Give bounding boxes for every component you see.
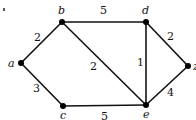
vertex-d (143, 19, 149, 25)
vertex-label-a: a (8, 57, 15, 70)
vertex-label-e: e (143, 108, 150, 120)
weight-label-c-e: 5 (101, 110, 108, 120)
weighted-graph: a b c d e z 2 3 5 2 1 2 4 5 (0, 0, 196, 120)
edge-b-e (62, 22, 146, 105)
edge-a-b (21, 22, 62, 63)
weight-label-d-z: 2 (167, 30, 174, 43)
edge-d-z (146, 22, 188, 66)
vertex-label-z: z (192, 60, 196, 73)
weight-label-d-e: 1 (137, 56, 144, 69)
vertex-label-b: b (58, 4, 65, 17)
weight-label-e-z: 4 (167, 86, 174, 99)
vertex-label-d: d (142, 4, 149, 17)
weight-label-b-e: 2 (90, 60, 97, 73)
vertex-a (18, 60, 24, 66)
edge-a-c (21, 63, 63, 106)
edge-c-e (63, 105, 146, 106)
weight-label-a-c: 3 (33, 82, 40, 95)
weight-label-a-b: 2 (34, 31, 41, 44)
vertex-label-c: c (60, 109, 66, 120)
weight-label-b-d: 5 (100, 4, 107, 17)
vertex-z (185, 63, 191, 69)
corner-mark (3, 8, 5, 11)
vertex-b (59, 19, 65, 25)
